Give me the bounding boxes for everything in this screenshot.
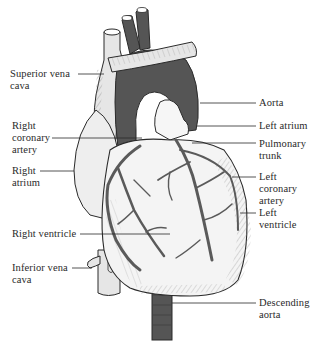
- label-right-atrium: Right atrium: [12, 165, 40, 189]
- label-descending-aorta: Descending aorta: [259, 297, 310, 321]
- label-right-coronary-artery: Right coronary artery: [12, 120, 50, 156]
- label-left-coronary-artery: Left coronary artery: [259, 171, 297, 207]
- label-aorta: Aorta: [259, 97, 283, 109]
- label-inferior-vena-cava: Inferior vena cava: [12, 262, 68, 286]
- label-pulmonary-trunk: Pulmonary trunk: [259, 138, 306, 162]
- label-right-ventricle: Right ventricle: [12, 228, 76, 240]
- label-superior-vena-cava: Superior vena cava: [10, 68, 70, 92]
- label-left-ventricle: Left ventricle: [259, 207, 297, 231]
- heart-diagram: Superior vena cava Right coronary artery…: [0, 0, 325, 342]
- aortic-branches: [122, 8, 150, 55]
- label-left-atrium: Left atrium: [259, 120, 308, 132]
